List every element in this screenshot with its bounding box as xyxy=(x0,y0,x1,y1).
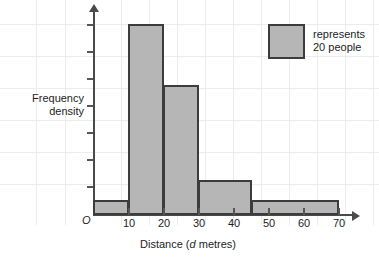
origin-label: O xyxy=(82,214,91,226)
x-axis-title-suffix: metres) xyxy=(196,238,236,250)
legend-label-line2: 20 people xyxy=(313,41,365,54)
x-axis-tick-label: 60 xyxy=(292,217,316,229)
x-axis-tick xyxy=(268,208,270,215)
y-axis-tick xyxy=(87,78,93,80)
x-axis-tick-label: 30 xyxy=(187,217,211,229)
y-axis-tick xyxy=(87,186,93,188)
legend-swatch xyxy=(268,24,305,59)
y-axis-tick xyxy=(87,51,93,53)
plot-area: 10 20 30 40 50 60 70 O Frequency density… xyxy=(0,0,379,262)
x-axis-tick-label: 40 xyxy=(222,217,246,229)
histogram-bar xyxy=(198,180,252,215)
x-axis-tick-label: 70 xyxy=(327,217,351,229)
y-axis-tick xyxy=(87,132,93,134)
histogram-bar xyxy=(93,200,129,215)
legend: represents 20 people xyxy=(268,24,365,59)
histogram-figure: 10 20 30 40 50 60 70 O Frequency density… xyxy=(0,0,379,262)
x-axis-tick xyxy=(128,208,130,215)
legend-label: represents 20 people xyxy=(313,24,365,54)
y-axis-tick xyxy=(87,159,93,161)
x-axis-tick xyxy=(198,208,200,215)
y-axis-title: Frequency density xyxy=(6,92,84,118)
x-axis-tick xyxy=(163,208,165,215)
y-axis-title-line1: Frequency xyxy=(6,92,84,105)
x-axis-tick-label: 50 xyxy=(257,217,281,229)
y-axis-arrow-icon xyxy=(89,4,99,12)
x-axis-tick xyxy=(338,208,340,215)
x-axis-tick xyxy=(233,208,235,215)
histogram-bar xyxy=(251,200,339,215)
x-axis-title-prefix: Distance ( xyxy=(140,238,190,250)
legend-label-line1: represents xyxy=(313,28,365,41)
x-axis-tick xyxy=(303,208,305,215)
histogram-bar xyxy=(128,24,164,215)
histogram-bar xyxy=(163,85,199,215)
y-axis-tick xyxy=(87,105,93,107)
x-axis-title: Distance (d metres) xyxy=(140,238,236,250)
y-axis-title-line2: density xyxy=(6,105,84,118)
y-axis-line xyxy=(93,10,95,215)
y-axis-tick xyxy=(87,24,93,26)
x-axis-arrow-icon xyxy=(352,211,360,221)
x-axis-tick-label: 20 xyxy=(152,217,176,229)
x-axis-tick-label: 10 xyxy=(117,217,141,229)
